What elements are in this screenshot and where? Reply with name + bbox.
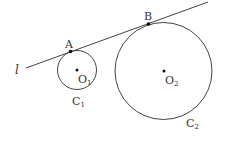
label-point-b: B	[144, 10, 152, 23]
label-center-o1: O1	[78, 73, 92, 87]
label-circle-c2: C2	[186, 117, 199, 131]
center-o1	[76, 69, 79, 72]
label-center-o2: O2	[165, 74, 179, 88]
label-line-l: l	[15, 63, 19, 77]
label-circle-c1: C1	[72, 95, 85, 109]
center-o2	[163, 70, 166, 73]
label-point-a: A	[64, 38, 74, 51]
geometry-diagram: l A B O1 O2 C1 C2	[0, 0, 226, 143]
